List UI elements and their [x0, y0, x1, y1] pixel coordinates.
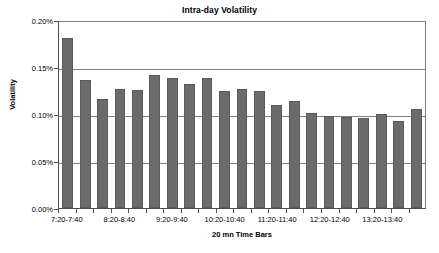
- x-tick-slot: [58, 209, 76, 214]
- x-tick-slot: [303, 209, 321, 214]
- x-axis-tick-mark: [93, 209, 94, 213]
- x-tick-slot: [76, 209, 94, 214]
- bar[interactable]: [167, 78, 178, 208]
- bar-slot: [355, 22, 372, 208]
- x-axis-tick-mark: [339, 209, 340, 213]
- bar-slot: [407, 22, 424, 208]
- bar-slot: [285, 22, 302, 208]
- x-axis-tick-mark: [286, 209, 287, 213]
- bar[interactable]: [341, 117, 352, 208]
- x-tick-slot: [356, 209, 374, 214]
- x-axis-tick-mark: [409, 209, 410, 213]
- x-tick-slot: [286, 209, 304, 214]
- x-axis-tick-mark: [128, 209, 129, 213]
- x-label-slot: [76, 215, 94, 227]
- x-axis-ticks: [58, 209, 426, 214]
- x-label-slot: [286, 215, 304, 227]
- y-axis-tick-label: 0.20%: [5, 17, 53, 26]
- x-axis-tick-mark: [111, 209, 112, 213]
- bar-slot: [268, 22, 285, 208]
- x-tick-slot: [163, 209, 181, 214]
- x-tick-slot: [198, 209, 216, 214]
- x-tick-slot: [321, 209, 339, 214]
- x-label-slot: [233, 215, 251, 227]
- x-tick-slot: [251, 209, 269, 214]
- bar-slot: [164, 22, 181, 208]
- x-tick-slot: [339, 209, 357, 214]
- bar[interactable]: [219, 91, 230, 208]
- x-axis-tick-mark: [216, 209, 217, 213]
- bar-slot: [76, 22, 93, 208]
- bar-slot: [216, 22, 233, 208]
- x-axis-tick-mark: [233, 209, 234, 213]
- bar-slot: [59, 22, 76, 208]
- intra-day-volatility-chart: Intra-day Volatility Volatility 0.20%0.1…: [0, 0, 439, 253]
- x-tick-slot: [216, 209, 234, 214]
- x-axis-tick-mark: [76, 209, 77, 213]
- y-axis-tick-label: 0.10%: [5, 111, 53, 120]
- bar[interactable]: [149, 75, 160, 208]
- x-label-slot: 12:20-12:40: [321, 215, 339, 227]
- bar[interactable]: [184, 84, 195, 208]
- x-axis-tick-mark: [303, 209, 304, 213]
- x-axis-tick-labels: 7:20-7:408:20-8:409:20-9:4010:20-10:4011…: [58, 215, 426, 227]
- bar[interactable]: [62, 38, 73, 208]
- x-label-slot: 8:20-8:40: [111, 215, 129, 227]
- x-axis-tick-mark: [146, 209, 147, 213]
- bar-slot: [129, 22, 146, 208]
- bar-slot: [320, 22, 337, 208]
- x-axis-tick-mark: [391, 209, 392, 213]
- bar-slot: [111, 22, 128, 208]
- x-tick-slot: [374, 209, 392, 214]
- bar[interactable]: [376, 114, 387, 208]
- bar[interactable]: [132, 90, 143, 208]
- x-tick-slot: [233, 209, 251, 214]
- chart-title: Intra-day Volatility: [0, 5, 439, 15]
- bar[interactable]: [254, 91, 265, 208]
- bar[interactable]: [358, 118, 369, 208]
- bar[interactable]: [393, 121, 404, 208]
- bar[interactable]: [289, 101, 300, 208]
- bar-slot: [338, 22, 355, 208]
- x-label-slot: 11:20-11:40: [268, 215, 286, 227]
- x-tick-slot: [146, 209, 164, 214]
- bar-slot: [303, 22, 320, 208]
- x-axis-tick-mark: [356, 209, 357, 213]
- x-label-slot: 10:20-10:40: [216, 215, 234, 227]
- x-label-slot: 9:20-9:40: [163, 215, 181, 227]
- bar-slot: [390, 22, 407, 208]
- plot-area: [58, 21, 426, 209]
- bar[interactable]: [97, 99, 108, 208]
- bar[interactable]: [306, 113, 317, 208]
- bar[interactable]: [115, 89, 126, 208]
- x-tick-slot: [93, 209, 111, 214]
- x-axis-tick-mark: [268, 209, 269, 213]
- bar[interactable]: [237, 89, 248, 208]
- bar-slot: [94, 22, 111, 208]
- x-label-slot: 7:20-7:40: [58, 215, 76, 227]
- x-label-slot: [391, 215, 409, 227]
- x-tick-slot: [409, 209, 427, 214]
- bar[interactable]: [202, 78, 213, 208]
- bar-slot: [146, 22, 163, 208]
- x-axis-tick-mark: [374, 209, 375, 213]
- x-tick-slot: [181, 209, 199, 214]
- x-label-slot: [128, 215, 146, 227]
- bar[interactable]: [271, 105, 282, 208]
- x-label-slot: 13:20-13:40: [374, 215, 392, 227]
- bar-slot: [181, 22, 198, 208]
- bar-slot: [233, 22, 250, 208]
- y-axis-tick-label: 0.00%: [5, 205, 53, 214]
- x-axis-title: 20 mn Time Bars: [58, 230, 426, 239]
- x-axis-tick-mark: [251, 209, 252, 213]
- bar[interactable]: [411, 109, 422, 208]
- x-axis-tick-mark: [181, 209, 182, 213]
- bar[interactable]: [324, 116, 335, 208]
- bar-slot: [198, 22, 215, 208]
- bar[interactable]: [80, 80, 91, 208]
- x-tick-slot: [128, 209, 146, 214]
- x-axis-tick-mark: [321, 209, 322, 213]
- x-axis-tick-mark: [163, 209, 164, 213]
- y-axis-tick-label: 0.05%: [5, 158, 53, 167]
- x-tick-slot: [111, 209, 129, 214]
